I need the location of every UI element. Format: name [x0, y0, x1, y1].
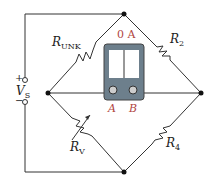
- resistor-rv-icon: [72, 118, 92, 136]
- terminal-b-label: B: [129, 102, 137, 115]
- label-r2: R2: [170, 32, 184, 48]
- resistor-r2-icon: [157, 46, 170, 60]
- meter-reading: 0 A: [117, 28, 135, 41]
- label-r4: R4: [166, 136, 180, 152]
- ammeter-icon: [104, 44, 144, 100]
- label-plus: +: [15, 72, 23, 83]
- label-r-unk: RUNK: [52, 35, 81, 51]
- label-rv: RV: [70, 140, 85, 156]
- label-minus: −: [15, 95, 23, 106]
- circuit-schematic: [0, 0, 217, 185]
- terminal-a-label: A: [108, 102, 116, 115]
